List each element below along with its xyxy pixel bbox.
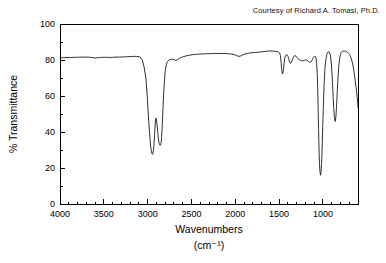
y-axis-title: % Transmittance bbox=[7, 75, 19, 153]
svg-text:20: 20 bbox=[45, 163, 55, 173]
svg-text:0: 0 bbox=[50, 199, 55, 209]
spectrum-plot: 4000350030002500200015001000020406080100… bbox=[0, 0, 386, 263]
svg-text:40: 40 bbox=[45, 127, 55, 137]
svg-text:3500: 3500 bbox=[94, 209, 114, 219]
svg-text:1500: 1500 bbox=[269, 209, 289, 219]
x-axis-units: (cm⁻¹) bbox=[194, 239, 225, 251]
svg-text:100: 100 bbox=[40, 19, 55, 29]
svg-text:4000: 4000 bbox=[50, 209, 70, 219]
svg-text:60: 60 bbox=[45, 91, 55, 101]
axis-tick-labels: 4000350030002500200015001000020406080100 bbox=[40, 19, 333, 219]
spectrum-trace bbox=[60, 51, 358, 175]
svg-text:2500: 2500 bbox=[181, 209, 201, 219]
svg-text:1000: 1000 bbox=[313, 209, 333, 219]
ir-spectrum-figure: Courtesy of Richard A. Tomasi, Ph.D. 400… bbox=[0, 0, 386, 263]
x-axis-title: Wavenumbers bbox=[175, 223, 242, 235]
plot-frame bbox=[60, 24, 358, 204]
svg-text:2000: 2000 bbox=[225, 209, 245, 219]
axis-ticks bbox=[60, 24, 358, 204]
svg-text:3000: 3000 bbox=[138, 209, 158, 219]
svg-text:80: 80 bbox=[45, 55, 55, 65]
